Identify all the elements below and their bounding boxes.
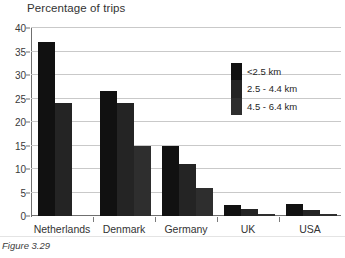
y-tick-mark-0 (26, 216, 30, 217)
y-tick-mark-15 (26, 145, 30, 146)
x-axis-separator (279, 217, 280, 222)
y-tick-label-30: 30 (2, 70, 26, 81)
x-tick-label: Germany (164, 223, 207, 235)
y-tick-label-35: 35 (2, 46, 26, 57)
y-tick-mark-20 (26, 122, 30, 123)
y-tick-label-20: 20 (2, 117, 26, 128)
bar (258, 214, 275, 216)
bar-group (31, 28, 93, 216)
y-axis-ticks: 0510152025303540 (0, 28, 26, 216)
y-tick-label-40: 40 (2, 23, 26, 34)
figure-caption: Figure 3.29 (2, 240, 50, 251)
bar (100, 91, 117, 216)
legend-label: 2.5 - 4.4 km (247, 80, 297, 97)
y-tick-label-5: 5 (2, 187, 26, 198)
figure-container: Percentage of trips 0510152025303540 Net… (0, 0, 345, 258)
y-tick-label-15: 15 (2, 140, 26, 151)
bar-group (279, 28, 341, 216)
bar-group (217, 28, 279, 216)
chart-legend: <2.5 km2.5 - 4.4 km4.5 - 6.4 km (231, 63, 336, 116)
bar (241, 209, 258, 216)
legend-labels: <2.5 km2.5 - 4.4 km4.5 - 6.4 km (247, 63, 297, 115)
chart-title: Percentage of trips (27, 2, 125, 14)
y-tick-mark-25 (26, 98, 30, 99)
bar-group (155, 28, 217, 216)
bar (303, 210, 320, 216)
x-axis-separator (155, 217, 156, 222)
y-tick-mark-35 (26, 51, 30, 52)
x-tick-label: UK (241, 223, 256, 235)
bar (55, 103, 72, 216)
legend-swatch (231, 98, 242, 115)
bar (320, 214, 337, 216)
y-tick-label-0: 0 (2, 211, 26, 222)
caption-divider (0, 236, 345, 237)
x-axis-separator (93, 217, 94, 222)
bar (224, 205, 241, 216)
bar-groups (31, 28, 341, 216)
bar (286, 204, 303, 216)
y-tick-mark-5 (26, 192, 30, 193)
bar (162, 146, 179, 217)
x-tick-label: Netherlands (34, 223, 91, 235)
bar (38, 42, 55, 216)
y-tick-mark-30 (26, 75, 30, 76)
y-tick-mark-10 (26, 169, 30, 170)
y-tick-label-25: 25 (2, 93, 26, 104)
bar (179, 164, 196, 216)
x-axis: NetherlandsDenmarkGermanyUKUSA (31, 217, 341, 241)
bar (196, 188, 213, 216)
x-tick-label: USA (299, 223, 321, 235)
plot-area (31, 28, 341, 216)
bar (117, 103, 134, 216)
legend-label: 4.5 - 6.4 km (247, 98, 297, 115)
legend-label: <2.5 km (247, 63, 297, 80)
legend-swatch (231, 63, 242, 80)
y-tick-label-10: 10 (2, 164, 26, 175)
legend-swatch (231, 80, 242, 97)
legend-swatches (231, 63, 242, 115)
bar (134, 146, 151, 217)
bar-group (93, 28, 155, 216)
x-axis-separator (217, 217, 218, 222)
x-tick-label: Denmark (103, 223, 146, 235)
y-tick-mark-40 (26, 28, 30, 29)
